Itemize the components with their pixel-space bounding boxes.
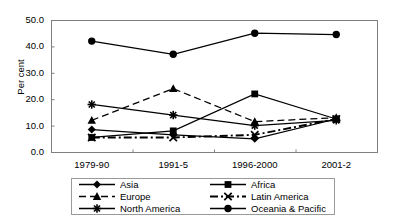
data-point-circle [170,51,177,58]
data-series-group [88,30,341,143]
legend-item-oceania-pacific[interactable]: Oceania & Pacific [203,203,334,214]
line-chart: Per cent 50.040.030.020.010.00.0 1979-90… [0,0,406,219]
data-point-circle [333,31,340,38]
plot-border [52,21,378,153]
legend-label: Oceania & Pacific [251,203,326,214]
legend: AsiaAfricaEuropeLatin AmericaNorth Ameri… [71,178,335,215]
data-point-square [170,127,177,134]
legend-item-europe[interactable]: Europe [72,191,203,202]
legend-swatch-cross-icon [209,191,247,202]
legend-swatch-triangle-icon [78,191,116,202]
legend-item-latin-america[interactable]: Latin America [203,191,334,202]
legend-label: Asia [120,179,138,190]
legend-swatch-asterisk-icon [78,203,116,214]
series-africa [88,91,339,141]
data-point-square [225,181,232,188]
legend-item-asia[interactable]: Asia [72,179,203,190]
legend-label: Europe [120,191,151,202]
legend-swatch-square-icon [209,179,247,190]
data-point-circle [224,204,231,211]
data-point-circle [251,30,258,37]
legend-item-north-america[interactable]: North America [72,203,203,214]
legend-label: Africa [251,179,275,190]
legend-grid: AsiaAfricaEuropeLatin AmericaNorth Ameri… [72,179,334,214]
series-line [92,94,337,138]
data-point-square [251,91,258,98]
series-line [92,33,337,54]
data-point-diamond [93,181,101,189]
series-europe [88,84,341,125]
plot-frame [52,21,378,153]
legend-swatch-diamond-icon [78,179,116,190]
series-line [92,119,337,139]
data-point-diamond [88,126,96,134]
legend-label: North America [120,203,180,214]
data-point-circle [88,37,95,44]
legend-label: Latin America [251,191,309,202]
data-point-triangle [169,84,177,92]
data-point-asterisk [332,116,340,124]
series-line [92,89,337,122]
legend-item-africa[interactable]: Africa [203,179,334,190]
series-oceania-pacific [88,30,340,59]
data-point-asterisk [93,204,101,212]
data-point-asterisk [169,111,177,119]
data-point-asterisk [88,100,96,108]
data-point-asterisk [251,121,259,129]
legend-swatch-circle-icon [209,203,247,214]
